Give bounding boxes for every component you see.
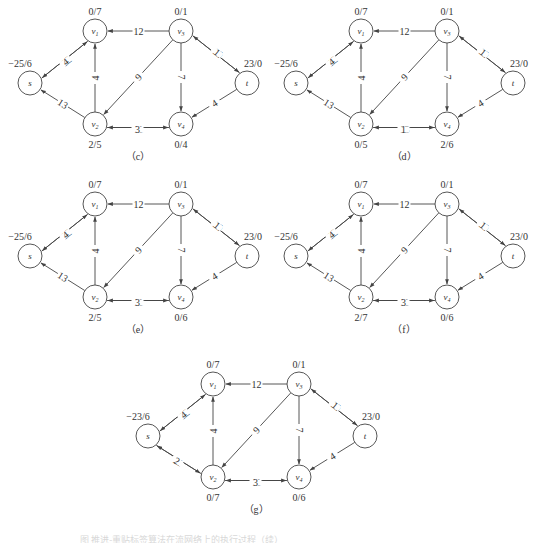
node-s: s−23/6 [126,411,160,448]
node-name-label: s [294,78,298,88]
edge-capacity-label: 12 [134,26,144,37]
edge-capacity-label: 3 [135,124,140,135]
panel-caption: （g） [244,504,269,515]
node-v2: v22/7 [349,285,373,323]
edge-capacity-label: 4 [90,76,101,81]
edge-capacity-label: 3 [401,297,406,308]
node-v3: v30/1 [435,6,459,43]
node-excess-height-label: 0/7 [207,492,220,503]
edge-capacity-label: 12 [252,379,262,390]
figure-footnote: 图 推进-重贴标签算法在流网络上的执行过程（续） [80,533,460,543]
node-name-label: s [28,78,32,88]
node-excess-height-label: −25/6 [8,231,31,242]
node-v1: v10/7 [201,359,225,396]
node-s: s−25/6 [8,231,42,268]
edge-capacity-label: 7 [294,428,305,433]
node-excess-height-label: 0/6 [175,312,188,323]
node-v2: v20/7 [201,465,225,503]
panel-g: 124124112971914113s−23/6v10/7v20/7v30/1v… [126,359,380,515]
node-excess-height-label: 23/0 [510,231,528,242]
node-v4: v40/6 [169,285,193,323]
flow-network-figure: 12412413971914113s−25/6v10/7v22/5v30/1v4… [0,0,538,543]
node-v1: v10/7 [83,6,107,43]
node-s: s−25/6 [274,231,308,268]
node-v2: v22/5 [83,285,107,323]
node-excess-height-label: 23/0 [362,411,380,422]
node-excess-height-label: 2/5 [89,139,102,150]
node-t: t23/0 [235,58,262,95]
node-excess-height-label: 0/1 [175,179,188,190]
node-v4: v40/6 [287,465,311,503]
node-excess-height-label: 23/0 [244,231,262,242]
node-name-label: s [146,431,150,441]
node-t: t23/0 [501,58,528,95]
node-excess-height-label: 0/4 [175,139,188,150]
edge-capacity-label: 7 [176,248,187,253]
node-excess-height-label: 2/5 [89,312,102,323]
edge-capacity-label: 3 [135,297,140,308]
node-v3: v30/1 [169,179,193,216]
node-excess-height-label: 0/6 [441,312,454,323]
node-excess-height-label: 2/6 [441,139,454,150]
edge-capacity-label: 13 [322,96,336,111]
node-v1: v10/7 [349,179,373,216]
panel-caption: （c） [126,151,150,162]
edge-capacity-label: 4 [90,249,101,254]
node-name-label: s [28,251,32,261]
edge-capacity-label: 1 [401,124,406,135]
node-excess-height-label: 2/7 [355,312,368,323]
node-excess-height-label: 0/1 [175,6,188,17]
node-excess-height-label: 23/0 [510,58,528,69]
panel-f: 12412413971914113s−25/6v10/7v22/7v30/1v4… [274,179,528,335]
panel-c: 12412413971914113s−25/6v10/7v22/5v30/1v4… [8,6,262,162]
node-t: t23/0 [235,231,262,268]
node-v3: v30/1 [169,6,193,43]
node-v3: v30/1 [287,359,311,396]
edge-capacity-label: 4 [356,249,367,254]
edge-capacity-label: 7 [442,75,453,80]
node-excess-height-label: −25/6 [274,231,297,242]
node-v2: v22/5 [83,112,107,150]
node-excess-height-label: 0/7 [89,179,102,190]
node-excess-height-label: 0/5 [355,139,368,150]
node-s: s−25/6 [274,58,308,95]
node-v2: v20/5 [349,112,373,150]
panel-d: 12412413971914131s−25/6v10/7v20/5v30/1v4… [274,6,528,162]
edge-capacity-label: 13 [56,269,70,284]
edge-capacity-label: 4 [356,76,367,81]
edge-capacity-label: 12 [134,199,144,210]
node-excess-height-label: −25/6 [8,58,31,69]
node-t: t23/0 [501,231,528,268]
node-v1: v10/7 [349,6,373,43]
node-v3: v30/1 [435,179,459,216]
node-excess-height-label: 0/7 [207,359,220,370]
edge-capacity-label: 12 [400,199,410,210]
node-v4: v40/4 [169,112,193,150]
node-v1: v10/7 [83,179,107,216]
node-name-label: s [294,251,298,261]
node-t: t23/0 [353,411,380,448]
panel-e: 12412413971914113s−25/6v10/7v22/5v30/1v4… [8,179,262,335]
node-excess-height-label: 23/0 [244,58,262,69]
edge-capacity-label: 12 [400,26,410,37]
edge-capacity-label: 13 [56,96,70,111]
panel-caption: （d） [392,151,417,162]
node-excess-height-label: −25/6 [274,58,297,69]
node-v4: v40/6 [435,285,459,323]
edge-capacity-label: 7 [442,248,453,253]
node-excess-height-label: 0/7 [355,6,368,17]
node-excess-height-label: 0/7 [355,179,368,190]
node-v4: v42/6 [435,112,459,150]
panel-caption: （e） [126,324,150,335]
edge-capacity-label: 3 [253,477,258,488]
node-excess-height-label: 0/1 [441,6,454,17]
node-excess-height-label: −23/6 [126,411,149,422]
node-excess-height-label: 0/1 [441,179,454,190]
node-excess-height-label: 0/6 [293,492,306,503]
node-excess-height-label: 0/7 [89,6,102,17]
edge-capacity-label: 13 [322,269,336,284]
panel-caption: （f） [392,324,415,335]
edge-capacity-label: 7 [176,75,187,80]
edge-capacity-label: 4 [208,429,219,434]
node-s: s−25/6 [8,58,42,95]
